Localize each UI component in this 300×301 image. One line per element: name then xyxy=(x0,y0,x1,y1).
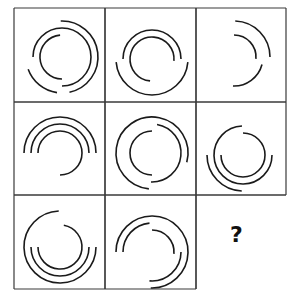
arc-shape xyxy=(207,155,242,191)
cell-r1-c1 xyxy=(116,117,188,189)
cell-r0-c2 xyxy=(233,21,270,86)
arc-shape xyxy=(149,252,181,281)
arc-shape xyxy=(31,247,89,276)
arc-shape xyxy=(123,30,181,59)
arc-shape xyxy=(33,28,91,86)
arc-shape xyxy=(38,131,82,175)
arc-shape xyxy=(40,35,62,79)
cell-r0-c1 xyxy=(116,30,188,95)
arc-shape xyxy=(61,21,98,92)
puzzle-cells xyxy=(24,21,272,288)
cell-r1-c2 xyxy=(207,126,272,191)
arc-shape xyxy=(152,230,174,254)
arc-shape xyxy=(24,117,96,153)
arc-shape xyxy=(116,216,188,288)
arc-shape xyxy=(116,62,188,95)
arc-shape xyxy=(130,37,174,81)
cell-r0-c0 xyxy=(28,21,98,93)
cell-r2-c0 xyxy=(24,211,96,283)
arc-shape xyxy=(234,35,256,59)
arc-shape xyxy=(221,133,265,177)
arc-shape xyxy=(235,21,270,57)
arc-shape xyxy=(31,124,89,153)
grid-lines xyxy=(14,8,286,289)
arc-shape xyxy=(116,117,188,189)
question-mark: ? xyxy=(230,222,243,247)
cell-r1-c0 xyxy=(24,117,96,175)
arc-shape xyxy=(24,211,96,283)
matrix-puzzle xyxy=(0,0,300,301)
arc-shape xyxy=(28,69,57,92)
arc-shape xyxy=(38,225,82,269)
arc-shape xyxy=(214,126,272,184)
arc-shape xyxy=(151,124,181,182)
arc-shape xyxy=(130,131,152,175)
arc-shape xyxy=(233,65,262,86)
arc-shape xyxy=(123,223,149,252)
cell-r2-c1 xyxy=(116,216,188,288)
